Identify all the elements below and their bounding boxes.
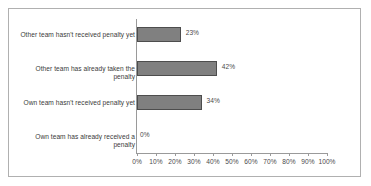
x-axis-tick xyxy=(327,153,328,156)
x-axis-tick xyxy=(213,153,214,156)
bar[interactable] xyxy=(137,27,181,42)
bar-value-label: 34% xyxy=(207,97,220,104)
x-axis-tick xyxy=(137,153,138,156)
category-label: Own team hasn't received penalty yet xyxy=(17,99,135,107)
x-axis-tick-label: 20% xyxy=(168,158,181,165)
x-axis-tick-label: 80% xyxy=(282,158,295,165)
x-axis-tick-label: 50% xyxy=(225,158,238,165)
category-label: Other team has already taken the penalty xyxy=(17,65,135,82)
x-axis-tick xyxy=(270,153,271,156)
bar-value-label: 42% xyxy=(222,63,235,70)
bar-value-label: 23% xyxy=(186,29,199,36)
x-axis-tick-label: 70% xyxy=(263,158,276,165)
bar-value-label: 0% xyxy=(140,131,150,138)
x-axis-tick xyxy=(289,153,290,156)
x-axis-tick xyxy=(194,153,195,156)
chart-frame: Other team hasn't received penalty yet O… xyxy=(8,8,361,177)
x-axis-tick xyxy=(175,153,176,156)
x-axis-tick-label: 10% xyxy=(149,158,162,165)
x-axis-tick-label: 100% xyxy=(318,158,335,165)
x-axis-tick xyxy=(251,153,252,156)
category-label-column: Other team hasn't received penalty yet O… xyxy=(13,9,135,178)
x-axis-tick-label: 90% xyxy=(301,158,314,165)
x-axis-tick xyxy=(156,153,157,156)
x-axis-tick xyxy=(232,153,233,156)
category-label: Other team hasn't received penalty yet xyxy=(17,31,135,39)
bar[interactable] xyxy=(137,61,217,76)
x-axis-tick-label: 60% xyxy=(244,158,257,165)
category-label: Own team has already received a penalty xyxy=(17,133,135,150)
x-axis-tick-label: 30% xyxy=(187,158,200,165)
x-axis-tick xyxy=(308,153,309,156)
bar[interactable] xyxy=(137,95,202,110)
bar-chart-plot-area: Other team hasn't received penalty yet O… xyxy=(9,9,362,178)
x-axis-tick-label: 0% xyxy=(132,158,142,165)
x-axis-tick-label: 40% xyxy=(206,158,219,165)
